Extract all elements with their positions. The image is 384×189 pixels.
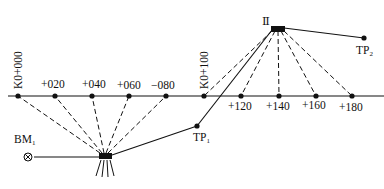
station-label-k0-000: K0+000 <box>12 51 24 89</box>
station-label-120: +120 <box>228 100 252 112</box>
station-label-140: +140 <box>266 100 290 112</box>
tripod-station-1 <box>96 160 114 177</box>
benchmark-label: BM1 <box>14 133 36 147</box>
instrument-station-2 <box>271 26 285 32</box>
station-label-160: +160 <box>302 99 326 111</box>
turning-point-2 <box>361 35 366 40</box>
station-label-060: +060 <box>117 79 141 91</box>
station-label-180: +180 <box>339 101 363 113</box>
station-label-040: +040 <box>82 78 106 90</box>
station-label-k0-100: K0+100 <box>198 51 210 89</box>
instrument-station-1 <box>99 153 112 159</box>
station-label-020: +020 <box>41 78 65 90</box>
station-label-080: −080 <box>151 79 175 91</box>
turning-point-1 <box>194 123 199 128</box>
sightlines-station-2 <box>204 31 352 96</box>
benchmark-bm1-icon <box>24 153 32 161</box>
leveling-diagram: K0+000 +020 +040 +060 −080 K0+100 +120 +… <box>0 0 384 189</box>
tp1-label: TP1 <box>193 131 210 145</box>
tp2-label: TP2 <box>356 44 373 58</box>
station-2-label: Ⅱ <box>262 15 270 27</box>
